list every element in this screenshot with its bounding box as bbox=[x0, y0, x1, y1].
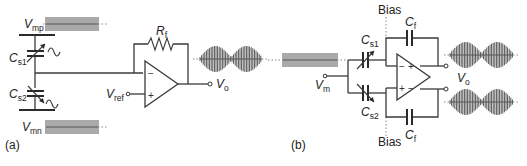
opamp-a-noninverting-sign: + bbox=[148, 90, 154, 101]
am-output-waveform-bottom bbox=[450, 89, 513, 115]
am-output-waveform bbox=[200, 46, 262, 72]
vref-label: Vref bbox=[106, 87, 125, 103]
panel-a: Vmp Cs1 Cs2 Vmn (a) bbox=[5, 17, 268, 152]
cs1-label: Cs1 bbox=[9, 51, 27, 67]
vmp-label: Vmp bbox=[24, 17, 44, 33]
cf-bottom-label: Cf bbox=[405, 128, 417, 144]
vm-carrier-wave bbox=[283, 53, 337, 67]
cs1-varactor bbox=[27, 44, 45, 62]
opamp-b-top-minus: − bbox=[399, 61, 405, 72]
rf-label: Rf bbox=[156, 24, 168, 40]
cs2-label-b: Cs2 bbox=[361, 105, 379, 121]
vo-terminal bbox=[208, 82, 212, 86]
opamp-b-bottom-minus: − bbox=[408, 83, 414, 94]
vmp-carrier-wave bbox=[46, 17, 98, 31]
cs2-label: Cs2 bbox=[9, 87, 27, 103]
vo-label: Vo bbox=[216, 77, 229, 93]
rf-resistor bbox=[148, 38, 173, 50]
am-output-waveform-top bbox=[450, 42, 513, 68]
panel-b-label: (b) bbox=[291, 138, 306, 152]
opamp-a-inverting-sign: − bbox=[148, 68, 154, 79]
panel-b: Vm Cs1 Cs2 Bias Bias Cf bbox=[268, 3, 520, 152]
vo-minus-terminal bbox=[444, 87, 448, 91]
diagram-canvas: Vmp Cs1 Cs2 Vmn (a) bbox=[0, 0, 527, 166]
opamp-b-bottom-plus: + bbox=[399, 83, 405, 94]
wire bbox=[134, 44, 148, 73]
vm-terminal bbox=[323, 74, 327, 78]
wire bbox=[413, 89, 438, 117]
panel-a-label: (a) bbox=[5, 138, 20, 152]
vref-terminal bbox=[126, 92, 130, 96]
vo-plus-terminal bbox=[444, 64, 448, 68]
bias-top-label: Bias bbox=[378, 3, 401, 17]
cs1-modulation-sine-icon bbox=[48, 48, 60, 56]
vmn-carrier-wave bbox=[46, 120, 98, 134]
vm-label: Vm bbox=[315, 78, 330, 94]
cs2-modulation-sine-icon bbox=[46, 100, 58, 108]
wire bbox=[173, 44, 188, 84]
cf-top-label: Cf bbox=[405, 15, 417, 31]
vmn-label: Vmn bbox=[22, 120, 42, 136]
cs1-label-b: Cs1 bbox=[361, 33, 379, 49]
opamp-b-top-plus: + bbox=[408, 61, 414, 72]
vo-label-b: Vo bbox=[457, 71, 470, 87]
wire bbox=[413, 38, 438, 66]
bias-bottom-label: Bias bbox=[378, 135, 401, 149]
